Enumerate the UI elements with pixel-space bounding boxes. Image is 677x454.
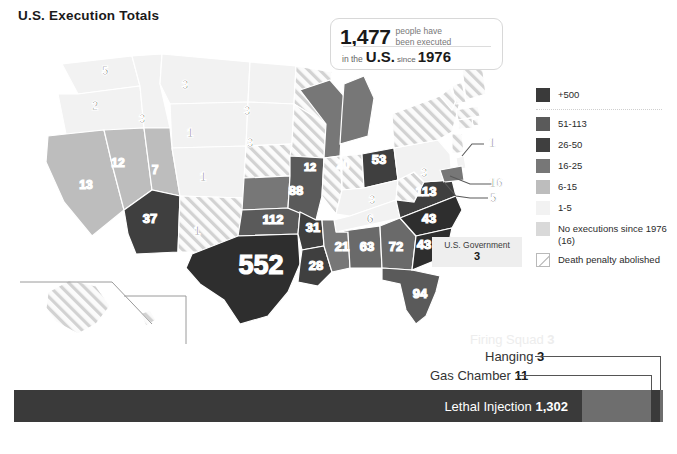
callout-divider: [343, 46, 491, 47]
legend-label-16-25: 16-25: [558, 159, 582, 172]
state-MO: [288, 156, 324, 220]
leader-line-hanging-h: [535, 356, 660, 357]
legend-item-51-113: 51-113: [536, 117, 672, 131]
method-name-gas-chamber: Gas Chamber: [430, 368, 511, 383]
callout-country: U.S.: [366, 48, 395, 65]
stacked-bar: Lethal Injection 1,302: [14, 390, 663, 422]
state-NE: [244, 144, 292, 178]
bar-segment-lethal-injection: Lethal Injection 1,302: [14, 390, 582, 422]
state-AK: [46, 280, 110, 334]
state-MI: [340, 76, 374, 144]
callout-top-row: 1,477 people have been executed: [340, 23, 451, 47]
callout-line-1: people have: [396, 26, 442, 36]
legend-item-16-25: 16-25: [536, 159, 672, 173]
state-ND: [248, 62, 296, 104]
state-AR: [298, 212, 324, 250]
legend-item-6-15: 6-15: [536, 180, 672, 194]
us-government-value: 3: [474, 251, 480, 263]
state-WY: [170, 102, 248, 148]
method-name-hanging: Hanging: [485, 349, 533, 364]
legend-swatch-1-5: [536, 201, 550, 215]
us-government-label: U.S. Government: [444, 241, 510, 250]
legend-label-plus500: +500: [558, 88, 579, 101]
state-NJ: [452, 134, 464, 154]
legend-item-no-executions: No executions since 1976 (16): [536, 222, 672, 246]
callout-in-the: in the: [342, 54, 363, 64]
state-HI: [140, 310, 156, 326]
execution-methods-bar-chart: Lethal Injection 1,302: [14, 390, 663, 422]
us-government-chip: U.S. Government 3: [432, 237, 522, 267]
method-name-firing-squad: Firing Squad: [470, 332, 544, 347]
state-IN: [342, 154, 364, 190]
callout-year: 1976: [418, 48, 451, 65]
us-choropleth-map: 5 2 3 3 1 3 3 12 7 13 1 37 1 12 20 53 88…: [0, 24, 540, 344]
map-legend: +500 51-113 26-50 16-25 6-15 1-5 No exec…: [536, 88, 672, 274]
state-OK: [238, 208, 300, 236]
infographic-canvas: U.S. Execution Totals: [0, 0, 677, 454]
legend-item-26-50: 26-50: [536, 138, 672, 152]
callout-since: since: [397, 55, 416, 64]
legend-swatch-no-executions: [536, 222, 550, 236]
legend-item-1-5: 1-5: [536, 201, 672, 215]
method-callouts: Firing Squad 3 Hanging 3 Gas Chamber 11 …: [330, 332, 677, 392]
state-SD: [246, 102, 294, 146]
state-label-DC: 5: [490, 191, 497, 205]
state-CT: [458, 118, 473, 129]
leader-line-gas-h: [517, 375, 651, 376]
legend-swatch-abolished: [536, 253, 550, 267]
legend-label-1-5: 1-5: [558, 201, 572, 214]
legend-swatch-26-50: [536, 138, 550, 152]
legend-dotted-divider: [536, 109, 662, 110]
legend-swatch-16-25: [536, 159, 550, 173]
bar-segment-gas-chamber: [651, 390, 660, 422]
state-label-MD: 16: [489, 176, 503, 190]
method-label-gas-chamber: Gas Chamber 11: [430, 368, 528, 383]
legend-swatch-6-15: [536, 180, 550, 194]
legend-label-no-executions: No executions since 1976 (16): [558, 222, 672, 246]
legend-item-abolished: Death penalty abolished: [536, 253, 672, 267]
method-label-firing-squad: Firing Squad 3: [470, 332, 555, 347]
state-FL: [382, 268, 440, 324]
state-CO: [172, 146, 246, 198]
legend-swatch-51-113: [536, 117, 550, 131]
legend-label-6-15: 6-15: [558, 180, 577, 193]
callout-line-2: been executed: [396, 37, 452, 47]
leader-line-DE: [462, 144, 484, 156]
page-title: U.S. Execution Totals: [18, 8, 159, 23]
state-KS: [242, 176, 290, 210]
bar-name-lethal-injection: Lethal Injection: [444, 399, 531, 414]
state-OR: [58, 86, 144, 134]
callout-total-count: 1,477: [340, 23, 391, 47]
callout-bottom-row: in the U.S. since 1976: [342, 48, 451, 65]
bar-label-lethal-injection: Lethal Injection 1,302: [444, 399, 582, 414]
total-executions-callout: 1,477 people have been executed in the U…: [330, 18, 503, 70]
legend-label-abolished: Death penalty abolished: [558, 253, 660, 266]
bar-segment-electrocution: [582, 390, 651, 422]
legend-item-plus500: +500: [536, 88, 672, 102]
state-MT: [160, 54, 250, 104]
method-value-firing-squad: 3: [547, 332, 554, 347]
legend-label-51-113: 51-113: [558, 117, 587, 130]
bar-segment-hanging: [660, 390, 663, 422]
legend-label-26-50: 26-50: [558, 138, 582, 151]
bar-value-lethal-injection: 1,302: [535, 399, 568, 414]
callout-top-text: people have been executed: [396, 23, 452, 47]
state-label-DE: 1: [489, 136, 496, 150]
legend-swatch-plus500: [536, 88, 550, 102]
state-MA: [456, 106, 480, 120]
